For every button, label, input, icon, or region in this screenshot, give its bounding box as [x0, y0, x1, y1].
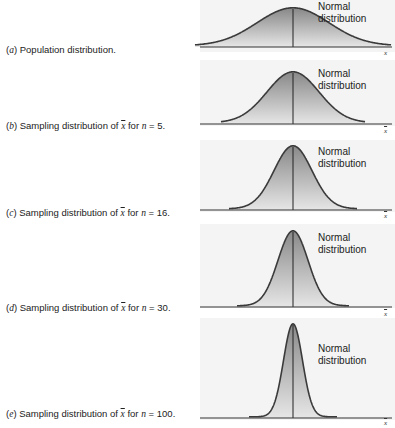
caption-b: (b) Sampling distribution of x for n = 5… [6, 120, 165, 132]
axis-label-d: x [384, 310, 387, 318]
normal-label-d: Normaldistribution [318, 232, 366, 256]
normal-label-c: Normaldistribution [318, 146, 366, 170]
caption-e: (e) Sampling distribution of x for n = 1… [6, 408, 175, 420]
caption-d: (d) Sampling distribution of x for n = 3… [6, 302, 171, 314]
axis-label-c: x [384, 212, 387, 220]
normal-label-a: Normaldistribution [318, 1, 366, 25]
axis-label-a: x [384, 49, 387, 57]
caption-c: (c) Sampling distribution of x for n = 1… [6, 207, 170, 219]
axis-label-b: x [384, 127, 387, 135]
axis-label-e: x [384, 419, 387, 427]
caption-a: (a) Population distribution. [6, 44, 116, 56]
normal-label-b: Normaldistribution [318, 68, 366, 92]
normal-label-e: Normaldistribution [318, 343, 366, 367]
